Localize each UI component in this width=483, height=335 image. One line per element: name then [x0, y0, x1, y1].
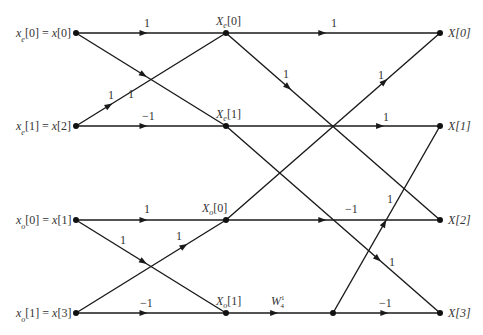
- arrow-icon: [139, 70, 149, 79]
- gain-label: −1: [142, 109, 155, 123]
- output-label-3: X[3]: [447, 306, 471, 320]
- gain-label: 1: [331, 16, 337, 30]
- node-dot: [73, 30, 79, 36]
- node-dot: [223, 30, 229, 36]
- intermediate-label-1: Xe[1]: [215, 107, 241, 123]
- node-dot: [223, 310, 229, 316]
- gain-label: 1: [128, 87, 134, 101]
- gain-label: 1: [176, 229, 182, 243]
- arrow-icon: [270, 310, 278, 316]
- node-dot: [73, 310, 79, 316]
- gain-label: 1: [144, 16, 150, 30]
- gain-label: 1: [378, 68, 384, 82]
- arrow-icon: [139, 257, 149, 266]
- arrow-icon: [140, 310, 148, 316]
- gain-label: 1: [144, 202, 150, 216]
- arrow-icon: [318, 217, 326, 223]
- node-dot: [437, 310, 443, 316]
- intermediate-label-0: Xe[0]: [215, 14, 241, 30]
- fft-flow-graph: xe[0] = x[0] xe[1] = x[2] xo[0] = x[1] x…: [0, 0, 483, 335]
- gain-label: 1: [283, 67, 289, 81]
- input-label-3: xo[1] = x[3]: [15, 306, 71, 324]
- arrow-icon: [140, 217, 148, 223]
- node-dot: [223, 123, 229, 129]
- gain-label: −1: [345, 202, 358, 216]
- input-label-1: xe[1] = x[2]: [15, 119, 71, 137]
- arrow-icon: [318, 30, 326, 36]
- node-dot: [73, 123, 79, 129]
- output-label-1: X[1]: [447, 119, 471, 133]
- arrow-icon: [104, 101, 114, 110]
- gain-label: −1: [379, 296, 392, 310]
- arrow-icon: [140, 30, 148, 36]
- node-dot: [330, 310, 336, 316]
- arrow-icon: [380, 310, 388, 316]
- intermediate-label-2: Xo[0]: [201, 201, 227, 217]
- gain-label: 1: [389, 255, 395, 269]
- node-dot: [437, 217, 443, 223]
- node-dot: [437, 123, 443, 129]
- node-dot: [437, 30, 443, 36]
- gain-label: −1: [140, 296, 153, 310]
- gain-label: 1: [108, 88, 114, 102]
- gain-label: 1: [387, 192, 393, 206]
- input-label-2: xo[0] = x[1]: [15, 213, 71, 231]
- gain-label: 1: [383, 110, 389, 124]
- arrow-icon: [140, 123, 148, 129]
- node-dot: [223, 217, 229, 223]
- gain-label: 1: [120, 233, 126, 247]
- input-label-0: xe[0] = x[0]: [15, 26, 71, 44]
- output-label-0: X[0]: [447, 26, 471, 40]
- output-label-2: X[2]: [447, 213, 471, 227]
- node-dot: [73, 217, 79, 223]
- twiddle-label: W14: [271, 294, 285, 310]
- intermediate-label-3: Xo[1]: [215, 294, 241, 310]
